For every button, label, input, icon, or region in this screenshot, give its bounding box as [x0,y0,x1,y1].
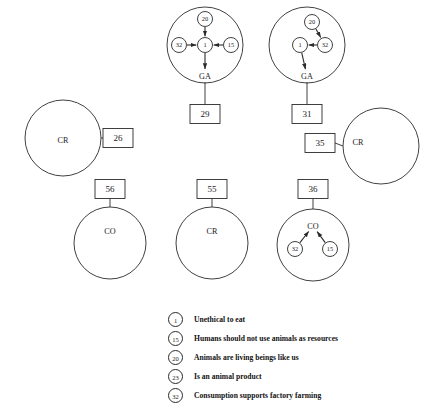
legend-item: 23 Is an animal product [168,367,418,386]
node-label: 1 [298,41,301,48]
cluster-anchor-label: CO [104,227,115,236]
cluster-cluster-ga-1: 29GA2032115 [167,7,243,124]
node-label: 1 [203,41,206,48]
legend-item-label: Animals are living beings like us [194,353,299,362]
box-label: 56 [106,184,116,194]
cluster-anchor-label: CR [58,136,69,145]
node-label: 32 [322,41,328,48]
node-label: 32 [176,41,182,48]
cluster-boundary [176,207,248,279]
legend-node-badge: 20 [168,350,183,365]
legend-node-badge: 23 [168,369,183,384]
cluster-cluster-co-left: 56CO [74,180,146,280]
legend-item: 32 Consumption supports factory farming [168,386,418,405]
legend-item: 1 Unethical to eat [168,310,418,329]
box-label: 31 [303,109,312,119]
box-label: 35 [316,138,326,148]
cluster-anchor-label: CR [353,138,364,147]
legend-node-badge: 1 [168,312,183,327]
legend-node-badge: 32 [168,388,183,403]
box-label: 36 [309,184,319,194]
legend-item-label: Consumption supports factory farming [194,391,321,400]
legend-item: 20 Animals are living beings like us [168,348,418,367]
legend-item-label: Is an animal product [194,372,262,381]
node-label: 20 [202,15,208,22]
box-label: 55 [208,184,218,194]
cluster-boundary [277,209,349,281]
node-label: 32 [292,245,298,252]
node-label: 20 [309,18,315,25]
box-label: 29 [201,109,211,119]
legend-item: 15 Humans should not use animals as reso… [168,329,418,348]
cluster-cluster-co-right: 36CO3215 [277,180,349,282]
legend-node-badge: 15 [168,331,183,346]
legend: 1 Unethical to eat 15 Humans should not … [168,310,418,405]
cluster-cluster-ga-2: 31GA20321 [269,7,345,124]
cluster-anchor-label: CO [307,222,318,231]
cluster-cluster-cr-left: 26CR [25,100,133,176]
legend-item-label: Humans should not use animals as resourc… [194,334,338,343]
node-label: 15 [228,41,234,48]
cluster-boundary [74,207,146,279]
legend-item-label: Unethical to eat [194,315,245,324]
cluster-anchor-label: GA [199,72,211,81]
cluster-box-connector [335,143,343,146]
cluster-cluster-cr-bottom: 55CR [176,180,248,280]
node-label: 15 [327,245,333,252]
box-label: 26 [114,133,124,143]
cluster-anchor-label: CR [207,227,218,236]
cluster-anchor-label: GA [301,72,313,81]
